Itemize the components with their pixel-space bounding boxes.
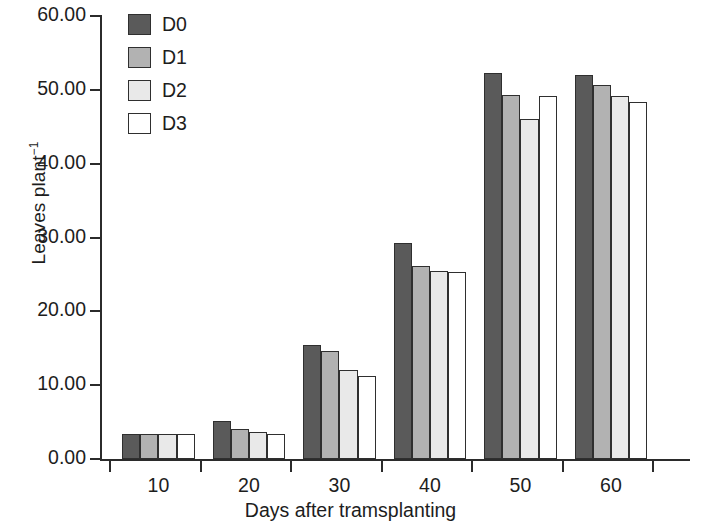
legend-item-d3: D3 — [128, 107, 258, 140]
y-axis-tick-mark — [90, 163, 101, 165]
bar — [158, 434, 176, 459]
bar — [430, 271, 448, 459]
y-axis-tick-mark — [90, 15, 101, 17]
y-axis-tick-mark — [90, 89, 101, 91]
x-axis-title: Days after tramsplanting — [0, 499, 701, 522]
x-axis-tick-mark — [109, 461, 111, 472]
bar — [267, 434, 285, 459]
bar — [539, 96, 557, 459]
legend-label: D3 — [162, 114, 187, 134]
x-axis-tick-mark — [200, 461, 202, 472]
bar — [484, 73, 502, 459]
bar — [122, 434, 140, 459]
y-axis-tick-mark — [90, 237, 101, 239]
bar — [575, 75, 593, 459]
bar — [303, 345, 321, 459]
x-axis-tick-label: 10 — [118, 474, 198, 497]
bar — [611, 96, 629, 459]
bar-chart-figure: Leaves plant−1 0.0010.0020.0030.0040.005… — [0, 0, 701, 528]
bar — [339, 370, 357, 459]
bars-layer — [0, 0, 701, 459]
bar — [502, 95, 520, 459]
legend: D0D1D2D3 — [128, 8, 258, 140]
bar — [249, 432, 267, 459]
x-axis-line — [100, 459, 690, 461]
bar — [213, 421, 231, 459]
bar — [140, 434, 158, 459]
x-axis-tick-label: 30 — [299, 474, 379, 497]
x-axis-tick-label: 40 — [390, 474, 470, 497]
bar — [448, 272, 466, 459]
bar — [593, 85, 611, 459]
legend-label: D1 — [162, 48, 187, 68]
bar — [629, 102, 647, 459]
legend-label: D0 — [162, 15, 187, 35]
bar — [412, 266, 430, 459]
y-axis-tick-mark — [90, 384, 101, 386]
legend-item-d2: D2 — [128, 74, 258, 107]
y-axis-tick-mark — [90, 310, 101, 312]
x-axis-tick-label: 50 — [480, 474, 560, 497]
legend-swatch-d0 — [128, 14, 151, 35]
bar — [394, 243, 412, 459]
bar — [231, 429, 249, 459]
legend-swatch-d3 — [128, 113, 151, 134]
legend-label: D2 — [162, 81, 187, 101]
x-axis-tick-label: 60 — [571, 474, 651, 497]
x-axis-tick-mark — [290, 461, 292, 472]
legend-swatch-d1 — [128, 47, 151, 68]
bar — [358, 376, 376, 459]
x-axis-tick-label: 20 — [209, 474, 289, 497]
x-axis-tick-mark — [652, 461, 654, 472]
legend-item-d1: D1 — [128, 41, 258, 74]
y-axis-tick-mark — [90, 458, 101, 460]
x-axis-tick-mark — [562, 461, 564, 472]
bar — [321, 351, 339, 459]
x-axis-tick-mark — [381, 461, 383, 472]
bar — [520, 119, 538, 459]
x-axis-tick-mark — [471, 461, 473, 472]
legend-item-d0: D0 — [128, 8, 258, 41]
bar — [177, 434, 195, 459]
legend-swatch-d2 — [128, 80, 151, 101]
